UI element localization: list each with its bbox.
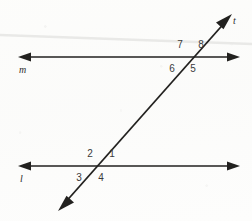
line-t-upper-arrowhead [216,14,232,29]
geometry-diagram: m l t 7 8 6 5 2 1 3 [0,0,252,221]
line-m-label: m [19,64,26,75]
angle-label-8: 8 [198,39,204,50]
angle-label-1: 1 [109,148,115,159]
figure-canvas: m l t 7 8 6 5 2 1 3 [0,0,252,221]
angle-label-3: 3 [76,172,82,183]
line-m-left-arrowhead [18,52,31,61]
line-m-group: m [18,52,240,75]
angle-label-4: 4 [98,172,104,183]
scan-streak-artifact [0,35,252,44]
angle-label-5: 5 [190,63,196,74]
line-l-right-arrowhead [227,161,240,170]
line-t-label: t [233,15,236,26]
line-m-right-arrowhead [227,52,240,61]
line-l-left-arrowhead [18,161,31,170]
angle-label-6: 6 [169,63,175,74]
line-l-label: l [20,173,23,184]
line-t-lower-arrowhead [58,196,74,211]
angle-label-7: 7 [177,39,183,50]
line-l-group: l [18,161,240,184]
angle-label-2: 2 [87,148,93,159]
